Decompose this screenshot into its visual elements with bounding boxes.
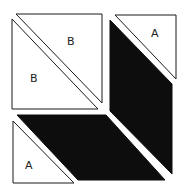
label-a-bottom-left: A: [25, 159, 33, 172]
label-a-top-right: A: [151, 27, 159, 40]
quilt-block-diagram: B B A A: [0, 0, 185, 195]
label-b-lower: B: [30, 72, 38, 85]
label-b-upper: B: [67, 35, 75, 48]
